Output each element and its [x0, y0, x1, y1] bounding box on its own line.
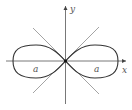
left-lobe-label: a: [33, 64, 38, 74]
x-axis-label: x: [122, 65, 127, 75]
lemniscate-diagram: y x a a: [0, 0, 132, 110]
origin-point: [64, 59, 67, 62]
y-axis-label: y: [69, 4, 76, 14]
right-lobe-label: a: [94, 64, 99, 74]
